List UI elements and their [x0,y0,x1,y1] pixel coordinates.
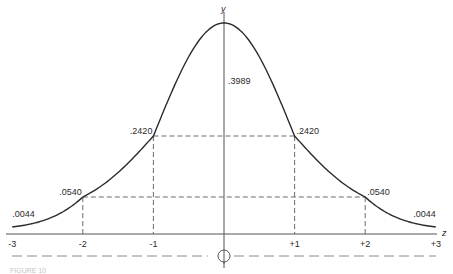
x-tick-label: +1 [289,239,299,249]
x-tick-labels: -3-2-1+1+2+3 [8,239,441,249]
point-value-label: .0540 [59,187,82,197]
figure-caption: FIGURE 10 [10,267,46,274]
point-value-label: .0044 [413,209,436,219]
point-value-label: .0044 [12,209,35,219]
x-tick-label: -3 [8,239,16,249]
y-axis-label: y [220,4,226,14]
point-value-label: .0540 [367,187,390,197]
z-axis-label: z [441,228,447,238]
point-value-label: .2420 [130,126,153,136]
x-tick-label: +2 [360,239,370,249]
point-value-label: .2420 [297,126,320,136]
point-value-label: .3989 [228,76,251,86]
x-tick-label: +3 [431,239,441,249]
x-tick-label: -1 [149,239,157,249]
normal-curve-chart: y z -3-2-1+1+2+3 .0044.0540.2420.3989.24… [0,0,453,274]
x-tick-label: -2 [79,239,87,249]
